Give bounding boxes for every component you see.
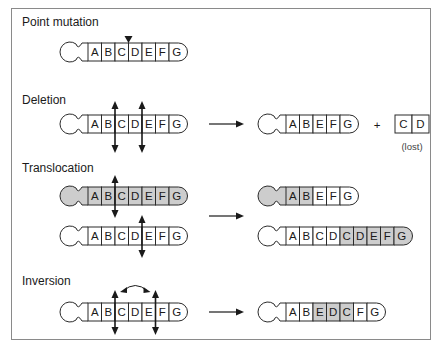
gene-label: G [343, 190, 352, 202]
gene-label: D [416, 118, 424, 130]
gene-label: E [145, 46, 153, 58]
gene-label: A [91, 118, 99, 130]
gene-label: F [159, 306, 166, 318]
gene-label: D [131, 190, 139, 202]
gene-label: D [329, 306, 337, 318]
gene-label: E [316, 306, 324, 318]
chromosome-deletion-before: ABCDEFG [60, 114, 188, 134]
centromere-bulb [258, 114, 286, 134]
gene-label: A [289, 118, 297, 130]
arrowhead-up-icon [152, 290, 159, 298]
diagram-content: ABCDEFGABCDEFGABEFG+CD(lost)ABCDEFGABCDE… [60, 36, 429, 335]
arrowhead-down-icon [112, 210, 119, 218]
centromere-bulb [258, 302, 286, 322]
arrowhead-up-icon [112, 290, 119, 298]
chromosome-deletion-after: ABEFG [258, 114, 359, 134]
gene-label: F [384, 230, 391, 242]
gene-label: B [104, 118, 112, 130]
gene-label: A [91, 306, 99, 318]
centromere-bulb [258, 226, 286, 246]
gene-label: E [316, 118, 324, 130]
gene-label: G [172, 306, 181, 318]
arrowhead-down-icon [112, 145, 119, 153]
gene-label: C [118, 230, 126, 242]
gene-label: C [118, 190, 126, 202]
chromosome-translocation-bottom: ABCDEFG [60, 226, 188, 246]
gene-label: E [145, 118, 153, 130]
gene-label: D [131, 230, 139, 242]
gene-label: C [343, 306, 351, 318]
gene-label: G [172, 190, 181, 202]
gene-label: D [131, 306, 139, 318]
arrow-right-icon [236, 121, 244, 128]
gene-label: B [302, 190, 310, 202]
gene-label: B [302, 306, 310, 318]
gene-label: G [397, 230, 406, 242]
arrowhead-up-icon [112, 175, 119, 183]
chromosome-translocation-result-bottom: ABCDCDEFG [258, 226, 413, 246]
gene-label: F [330, 118, 337, 130]
gene-label: G [343, 118, 352, 130]
gene-label: E [145, 306, 153, 318]
arrowhead-left-icon [120, 287, 127, 293]
gene-label: B [104, 230, 112, 242]
arrowhead-down-icon [139, 250, 146, 258]
arrowhead-down-icon [152, 327, 159, 335]
centromere-bulb [60, 226, 88, 246]
gene-label: A [289, 190, 297, 202]
gene-label: F [159, 230, 166, 242]
gene-label: E [145, 230, 153, 242]
arrow-right-icon [236, 213, 244, 220]
gene-label: C [343, 230, 351, 242]
centromere-bulb [60, 302, 88, 322]
gene-label: A [289, 306, 297, 318]
gene-label: B [302, 230, 310, 242]
arrowhead-right-icon [144, 287, 151, 293]
gene-label: A [91, 190, 99, 202]
gene-label: E [370, 230, 378, 242]
centromere-bulb [258, 186, 286, 206]
gene-label: E [316, 190, 324, 202]
gene-label: G [172, 230, 181, 242]
lost-note: (lost) [401, 141, 422, 152]
chromosome-inversion-before: ABCDEFG [60, 302, 188, 322]
gene-label: G [172, 46, 181, 58]
arrowhead-down-icon [112, 327, 119, 335]
gene-label: F [159, 118, 166, 130]
mutation-diagram: ABCDEFGABCDEFGABEFG+CD(lost)ABCDEFGABCDE… [0, 0, 440, 348]
gene-label: A [289, 230, 297, 242]
centromere-bulb [60, 114, 88, 134]
gene-label: F [159, 46, 166, 58]
gene-label: C [316, 230, 324, 242]
chromosome-point-mutation: ABCDEFG [60, 42, 188, 62]
gene-label: D [356, 230, 364, 242]
gene-label: A [91, 46, 99, 58]
arrowhead-up-icon [112, 101, 119, 109]
arrowhead-down-icon [139, 145, 146, 153]
mutation-marker-icon [125, 36, 133, 43]
gene-label: C [118, 118, 126, 130]
gene-label: D [131, 118, 139, 130]
centromere-bulb [60, 42, 88, 62]
gene-label: F [330, 190, 337, 202]
gene-label: C [118, 46, 126, 58]
arrow-right-icon [236, 309, 244, 316]
gene-label: C [399, 118, 407, 130]
arrowhead-up-icon [139, 101, 146, 109]
gene-label: F [357, 306, 364, 318]
chromosome-translocation-top: ABCDEFG [60, 186, 188, 206]
gene-label: G [172, 118, 181, 130]
gene-label: D [131, 46, 139, 58]
gene-label: B [104, 306, 112, 318]
gene-label: B [104, 46, 112, 58]
gene-label: E [145, 190, 153, 202]
plus-sign: + [374, 119, 381, 131]
gene-label: G [370, 306, 379, 318]
gene-label: B [104, 190, 112, 202]
chromosome-inversion-after: ABEDCFG [258, 302, 386, 322]
gene-label: C [118, 306, 126, 318]
gene-label: D [329, 230, 337, 242]
arrowhead-up-icon [139, 215, 146, 223]
chromosome-translocation-result-top: ABEFG [258, 186, 359, 206]
centromere-bulb [60, 186, 88, 206]
